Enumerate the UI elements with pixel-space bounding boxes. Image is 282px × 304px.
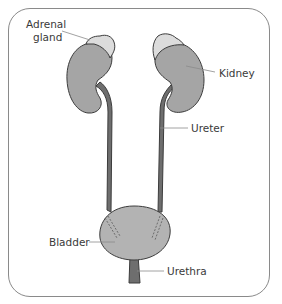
ureter-label: Ureter [191, 122, 225, 134]
kidney-label: Kidney [219, 67, 255, 79]
urinary-system-diagram: Adrenal gland Kidney Ureter Bladder Uret… [0, 0, 282, 304]
bladder-label: Bladder [49, 236, 90, 248]
bladder [100, 206, 170, 260]
urethra-label: Urethra [167, 265, 207, 277]
adrenal-gland-label-line2: gland [33, 31, 62, 43]
adrenal-leader-line [62, 31, 90, 40]
left-kidney [67, 42, 112, 113]
adrenal-gland-label-line1: Adrenal [26, 18, 66, 30]
